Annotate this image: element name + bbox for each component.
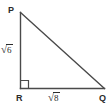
geometry-figure: P R Q √6 √8 bbox=[0, 0, 112, 108]
vertex-label-r: R bbox=[16, 94, 23, 103]
radicand-value: 6 bbox=[6, 44, 13, 55]
radicand-value: 8 bbox=[53, 92, 60, 103]
radical-expression: √6 bbox=[1, 44, 13, 55]
radical-expression: √8 bbox=[48, 92, 60, 103]
vertex-label-q: Q bbox=[99, 94, 106, 103]
vertex-label-p: P bbox=[8, 6, 14, 15]
triangle-side-hypotenuse bbox=[21, 13, 105, 89]
side-length-label-base-leg: √8 bbox=[48, 92, 60, 103]
right-angle-marker bbox=[21, 81, 29, 89]
side-length-label-vertical-leg: √6 bbox=[1, 44, 13, 55]
